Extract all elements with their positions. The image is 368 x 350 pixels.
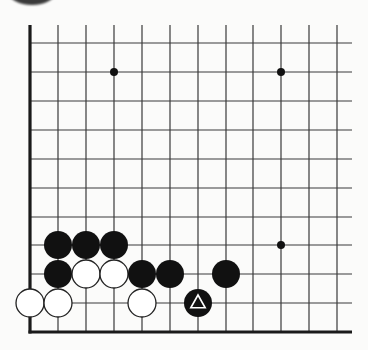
white-stone[interactable]: [72, 260, 100, 288]
black-stone[interactable]: [44, 260, 72, 288]
black-stone[interactable]: [72, 231, 100, 259]
black-stone[interactable]: [100, 231, 128, 259]
black-stone[interactable]: [184, 289, 212, 317]
black-stone[interactable]: [44, 231, 72, 259]
white-stone[interactable]: [100, 260, 128, 288]
star-point-icon: [277, 241, 285, 249]
white-stone[interactable]: [44, 289, 72, 317]
white-stone[interactable]: [16, 289, 44, 317]
star-point-icon: [277, 68, 285, 76]
go-board: [0, 0, 368, 350]
black-stone[interactable]: [156, 260, 184, 288]
white-stone[interactable]: [128, 289, 156, 317]
star-point-icon: [110, 68, 118, 76]
black-stone[interactable]: [212, 260, 240, 288]
black-stone[interactable]: [128, 260, 156, 288]
